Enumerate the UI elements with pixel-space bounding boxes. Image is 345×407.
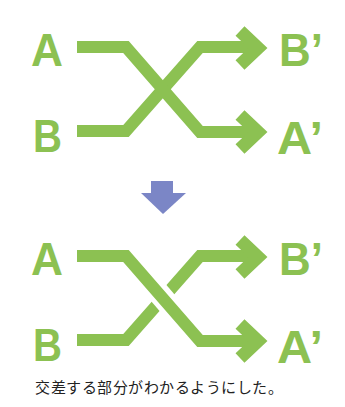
- path-a-to-a-prime: [77, 47, 258, 132]
- caption: 交差する部分がわかるようにした。: [35, 376, 283, 397]
- label-b: B: [33, 110, 62, 162]
- label-a: A: [31, 233, 63, 285]
- path-a-to-a-prime: [77, 256, 258, 341]
- diagram-before: A B B’ A’: [31, 24, 323, 164]
- diagram-after: A B B’ A’: [31, 233, 323, 373]
- crossing-diagram: A B B’ A’ A B B’ A’: [0, 0, 345, 407]
- label-b-prime: B’: [279, 233, 323, 285]
- label-b: B: [33, 319, 62, 371]
- label-b-prime: B’: [279, 24, 323, 76]
- label-a: A: [31, 24, 63, 76]
- label-a-prime: A’: [277, 112, 323, 164]
- label-a-prime: A’: [277, 321, 323, 373]
- down-arrow-icon: [141, 181, 186, 214]
